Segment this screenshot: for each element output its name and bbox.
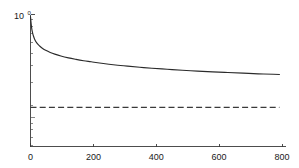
- y-axis-tick-label-mantissa: 10: [14, 11, 24, 21]
- x-axis-tick-label-3: 600: [212, 152, 227, 162]
- x-axis-tick-labels: 0 200 400 600 800: [28, 152, 290, 162]
- x-axis-ticks: [31, 143, 283, 147]
- axis-spines: [31, 15, 286, 147]
- x-axis-tick-label-1: 200: [86, 152, 101, 162]
- x-axis-tick-label-0: 0: [28, 152, 33, 162]
- x-axis-tick-label-2: 400: [149, 152, 164, 162]
- x-axis-tick-label-4: 800: [274, 152, 289, 162]
- series-decay-curve: [31, 17, 280, 75]
- chart-figure: 10 0: [0, 0, 299, 168]
- y-axis-tick-label-group: 10 0: [14, 10, 32, 22]
- semilog-plot: 10 0: [0, 0, 299, 168]
